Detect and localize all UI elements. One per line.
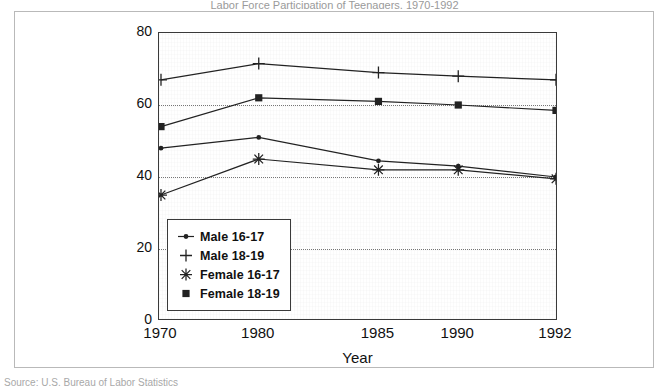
data-point-asterisk — [180, 269, 192, 281]
series-line-male-16-17 — [161, 137, 556, 177]
y-tick-mark — [158, 33, 159, 34]
y-tick-mark — [158, 105, 159, 106]
data-point-square — [158, 123, 165, 130]
series-line-female-16-17 — [161, 159, 556, 195]
y-axis-title-wrap: % in labor force — [104, 32, 128, 320]
data-point-dot — [376, 158, 381, 163]
legend-marker-dot-icon — [176, 227, 196, 246]
data-point-square — [255, 94, 262, 101]
data-point-plus — [158, 74, 167, 86]
x-tick-mark — [556, 319, 557, 320]
y-tick-label: 60 — [136, 95, 152, 111]
y-tick-label: 40 — [136, 167, 152, 183]
legend-item-label: Male 18-19 — [200, 249, 264, 263]
data-point-plus — [452, 70, 464, 82]
x-tick-mark — [458, 319, 459, 320]
data-point-square — [375, 98, 382, 105]
data-point-square — [455, 101, 462, 108]
data-point-plus — [372, 67, 384, 79]
data-point-dot — [256, 135, 261, 140]
legend-marker-asterisk-icon — [176, 265, 196, 284]
x-axis-labels: 19701980198519901992 — [158, 324, 557, 346]
data-point-asterisk — [372, 164, 384, 176]
legend-item-label: Female 18-19 — [200, 287, 280, 301]
data-point-asterisk — [550, 173, 557, 185]
data-point-plus — [550, 74, 557, 86]
x-tick-label: 1990 — [441, 324, 474, 341]
source-note-clipped: Source: U.S. Bureau of Labor Statistics — [0, 377, 669, 388]
chart-legend: Male 16-17Male 18-19Female 16-17Female 1… — [167, 219, 291, 311]
data-point-square — [552, 107, 557, 114]
x-tick-label: 1985 — [361, 324, 394, 341]
x-tick-label: 1980 — [241, 324, 274, 341]
series-line-female-18-19 — [161, 98, 556, 127]
plot-area: Male 16-17Male 18-19Female 16-17Female 1… — [158, 32, 557, 320]
x-tick-mark — [161, 319, 162, 320]
y-tick-label: 80 — [136, 23, 152, 39]
legend-item[interactable]: Male 18-19 — [176, 246, 280, 265]
x-tick-label: 1970 — [143, 324, 176, 341]
y-tick-mark — [158, 177, 159, 178]
legend-item[interactable]: Female 18-19 — [176, 284, 280, 303]
legend-item-label: Male 16-17 — [200, 230, 264, 244]
data-point-asterisk — [253, 153, 265, 165]
x-tick-mark — [259, 319, 260, 320]
data-point-dot — [184, 234, 189, 239]
data-point-plus — [253, 58, 265, 70]
legend-item[interactable]: Male 16-17 — [176, 227, 280, 246]
legend-marker-plus-icon — [176, 246, 196, 265]
y-tick-label: 20 — [136, 239, 152, 255]
legend-marker-square-icon — [176, 284, 196, 303]
x-axis-title: Year — [158, 349, 557, 366]
legend-item-label: Female 16-17 — [200, 268, 280, 282]
data-point-square — [182, 290, 189, 297]
data-point-dot — [159, 146, 164, 151]
data-point-asterisk — [452, 164, 464, 176]
series-line-male-18-19 — [161, 64, 556, 80]
data-point-asterisk — [158, 189, 167, 201]
data-point-plus — [180, 250, 192, 262]
chart-figure: Labor Force Participation of Teenagers, … — [0, 0, 669, 388]
chart-title-clipped: Labor Force Participation of Teenagers, … — [0, 0, 669, 9]
x-tick-mark — [378, 319, 379, 320]
legend-item[interactable]: Female 16-17 — [176, 265, 280, 284]
y-tick-mark — [158, 249, 159, 250]
x-tick-label: 1992 — [538, 324, 571, 341]
